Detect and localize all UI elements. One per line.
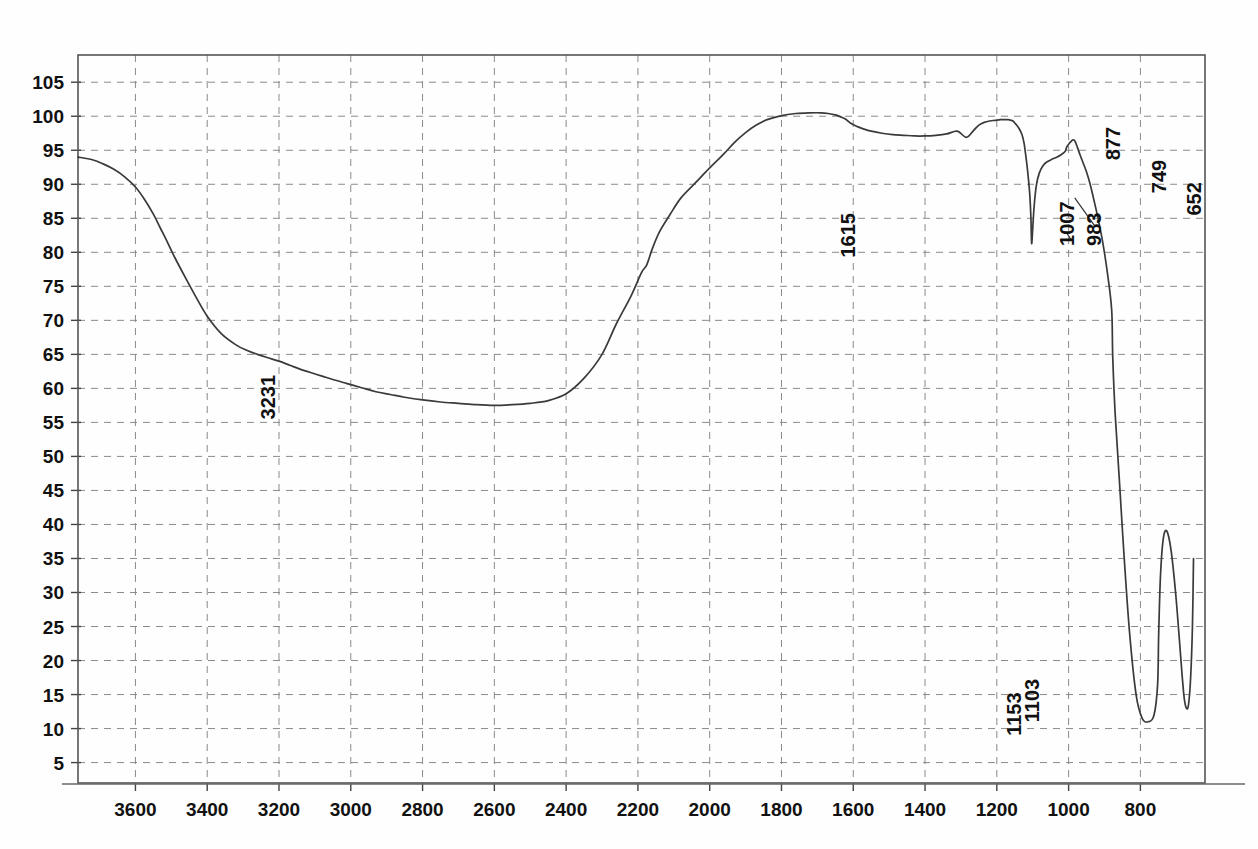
y-axis-tick-label: 70	[43, 310, 64, 331]
plot-frame	[78, 55, 1205, 783]
x-axis-tick-label: 3400	[186, 799, 228, 820]
ir-spectrum-figure: 5101520253035404550556065707580859095100…	[0, 0, 1258, 849]
peak-label-1103: 1103	[1021, 679, 1043, 722]
x-axis-tick-label: 1800	[760, 799, 802, 820]
y-axis-tick-label: 90	[43, 174, 64, 195]
peak-label-3231: 3231	[257, 375, 279, 420]
y-axis-tick-label: 40	[43, 514, 64, 535]
x-axis-tick-label: 3600	[114, 799, 156, 820]
x-axis-tick-label: 800	[1125, 799, 1157, 820]
spectrum-plot: 5101520253035404550556065707580859095100…	[0, 0, 1258, 849]
y-axis-tick-label: 5	[53, 753, 64, 774]
x-axis-tick-label: 2000	[689, 799, 731, 820]
y-axis-tick-label: 55	[43, 412, 65, 433]
x-axis-tick-label: 2400	[545, 799, 587, 820]
x-axis-tick-label: 1000	[1047, 799, 1089, 820]
y-axis-tick-label: 15	[43, 685, 65, 706]
x-axis-tick-label: 1600	[832, 799, 874, 820]
peak-label-983: 983	[1083, 213, 1105, 246]
y-axis-tick-label: 100	[32, 106, 64, 127]
y-axis-tick-label: 35	[43, 548, 65, 569]
x-axis-tick-label: 1200	[976, 799, 1018, 820]
y-axis-tick-label: 75	[43, 276, 65, 297]
x-axis-tick-label: 2800	[401, 799, 443, 820]
y-axis-tick-label: 60	[43, 378, 64, 399]
y-axis-tick-label: 50	[43, 446, 64, 467]
y-axis-tick-label: 45	[43, 480, 65, 501]
y-axis-tick-label: 20	[43, 651, 64, 672]
y-axis-tick-label: 65	[43, 344, 65, 365]
peak-label-1615: 1615	[837, 213, 859, 258]
peak-label-749: 749	[1148, 160, 1170, 193]
peak-label-1007: 1007	[1056, 201, 1078, 246]
y-axis-tick-label: 105	[32, 72, 64, 93]
x-axis-tick-label: 2600	[473, 799, 515, 820]
peak-label-652: 652	[1183, 182, 1205, 215]
peak-label-877: 877	[1102, 127, 1124, 160]
y-axis-tick-label: 85	[43, 208, 65, 229]
y-axis-tick-label: 25	[43, 617, 65, 638]
y-axis-tick-label: 80	[43, 242, 64, 263]
x-axis-tick-label: 3200	[258, 799, 300, 820]
x-axis-tick-label: 1400	[904, 799, 946, 820]
x-axis-tick-label: 2200	[617, 799, 659, 820]
y-axis-tick-label: 95	[43, 140, 65, 161]
y-axis-tick-label: 30	[43, 582, 64, 603]
x-axis-tick-label: 3000	[330, 799, 372, 820]
y-axis-tick-label: 10	[43, 719, 64, 740]
spectrum-trace	[78, 113, 1194, 722]
